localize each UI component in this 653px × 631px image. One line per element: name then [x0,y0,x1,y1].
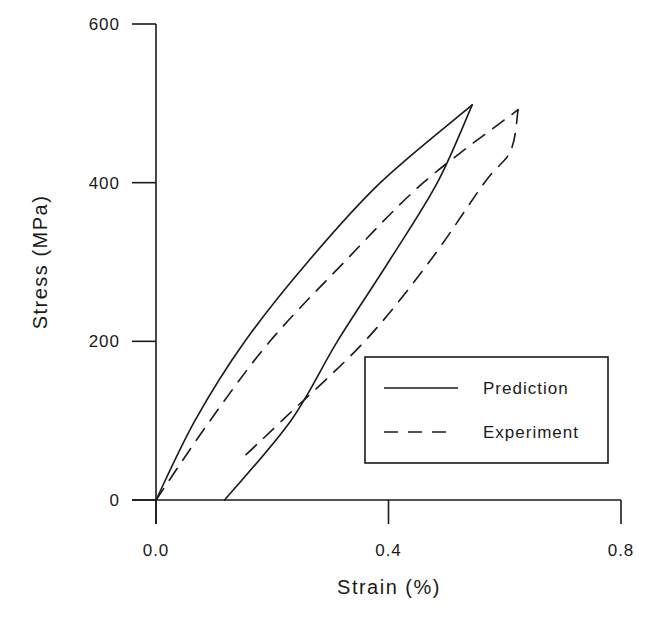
x-tick-label: 0.0 [143,541,170,560]
stress-strain-chart: 0200400600 0.00.40.8 Strain (%) Stress (… [0,0,653,631]
y-tick-label: 0 [110,491,120,510]
x-axis-title: Strain (%) [337,576,441,598]
legend-label-experiment: Experiment [483,423,579,442]
legend: Prediction Experiment [365,357,608,463]
x-tick-label: 0.8 [608,541,635,560]
y-axis-title: Stress (MPa) [29,195,51,330]
legend-label-prediction: Prediction [483,379,569,398]
x-ticks: 0.00.40.8 [143,500,635,560]
y-tick-label: 400 [89,174,120,193]
y-tick-label: 200 [89,332,120,351]
y-tick-label: 600 [89,15,120,34]
x-tick-label: 0.4 [375,541,402,560]
y-ticks: 0200400600 [89,15,156,510]
legend-box [365,357,608,463]
